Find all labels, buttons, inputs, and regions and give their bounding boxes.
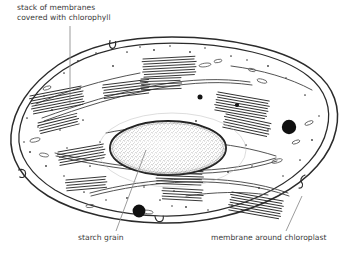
chloroplast-diagram: [0, 0, 348, 256]
vesicle: [39, 153, 49, 158]
lamella: [44, 83, 252, 121]
label-stack-of-membranes: stack of membranes covered with chloroph…: [17, 3, 111, 22]
vesicle: [214, 59, 222, 64]
granum: [214, 92, 270, 119]
granum: [222, 114, 271, 137]
vesicle: [30, 137, 41, 143]
plastoglobulus-small: [235, 103, 239, 107]
plastoglobulus: [133, 205, 146, 218]
label-grana-line1: stack of membranes: [17, 3, 111, 13]
vesicle: [257, 78, 268, 84]
label-grana-line2: covered with chlorophyll: [17, 13, 111, 23]
label-starch-grain: starch grain: [78, 233, 124, 243]
label-membrane-around-chloroplast: membrane around chloroplast: [211, 233, 326, 243]
vesicle: [199, 62, 211, 67]
vesicle: [304, 120, 313, 126]
granum: [65, 176, 107, 190]
membrane-notch-bottom: [155, 216, 163, 222]
chloroplast-svg: [0, 0, 348, 256]
granum: [102, 79, 151, 98]
plastoglobulus-small: [198, 95, 203, 100]
vesicle: [292, 139, 301, 145]
starch-grain: [110, 121, 226, 175]
granum: [142, 56, 197, 77]
plastoglobulus: [282, 120, 296, 134]
leader-line-membrane: [286, 196, 302, 231]
